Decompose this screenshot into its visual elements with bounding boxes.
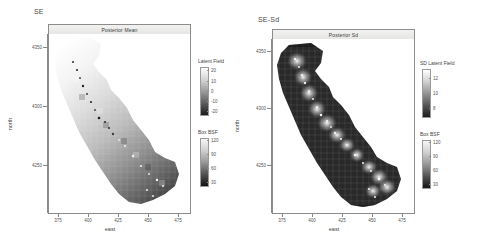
y-tick-label-1-right: 4300	[244, 106, 266, 111]
plot-area-posterior-mean	[48, 34, 191, 214]
legend-tick-bsf-r-1	[429, 156, 431, 157]
legend-tick-bsf-l-0	[207, 140, 209, 141]
legend-tick-bsf-r-0	[429, 142, 431, 143]
y-axis-title-right: north	[234, 120, 240, 133]
heatmap-canvas-mean	[49, 34, 190, 213]
legend-value-lf-3: -10	[211, 99, 218, 104]
legend-value-bsf-l-3: 30	[211, 180, 216, 185]
y-tick-label-0-right: 4350	[244, 49, 266, 54]
x-tick-4-right	[402, 213, 403, 217]
x-tick-1-right	[312, 213, 313, 217]
strip-label-posterior-mean: Posterior Mean	[101, 27, 137, 33]
x-tick-label-0-left: 375	[54, 218, 62, 223]
legend-tick-lf-4	[207, 111, 209, 112]
legend-title-latent-field: Latent Field	[198, 58, 224, 64]
legend-value-sdlf-1: 10	[433, 91, 438, 96]
legend-tick-sdlf-1	[429, 93, 431, 94]
panel-posterior-mean: SE Posterior Mean	[0, 0, 240, 249]
x-axis-title-left: east	[105, 226, 115, 232]
legend-title-sd-latent-field: SD Latent Field	[420, 60, 454, 66]
legend-tick-sdlf-0	[429, 78, 431, 79]
legend-value-bsf-l-2: 60	[211, 166, 216, 171]
y-tick-label-2-left: 4250	[20, 163, 42, 168]
x-tick-0-left	[58, 213, 59, 217]
legend-value-bsf-r-0: 120	[433, 140, 441, 145]
figure-root: SE Posterior Mean	[0, 0, 479, 249]
legend-title-box-bsf-left: Box BSF	[198, 129, 218, 135]
y-tick-label-1-left: 4300	[20, 104, 42, 109]
map-posterior-mean	[49, 34, 190, 213]
legend-tick-bsf-r-3	[429, 184, 431, 185]
x-tick-2-right	[342, 213, 343, 217]
x-tick-label-4-left: 475	[174, 218, 182, 223]
legend-tick-bsf-l-1	[207, 154, 209, 155]
legend-value-bsf-l-1: 90	[211, 152, 216, 157]
legend-value-bsf-l-0: 120	[211, 138, 219, 143]
y-tick-0-left	[43, 47, 47, 48]
x-tick-3-left	[148, 213, 149, 217]
x-tick-label-4-right: 475	[398, 218, 406, 223]
panel-posterior-sd: SE-Sd Posterior Sd	[240, 0, 479, 249]
legend-tick-sdlf-2	[429, 108, 431, 109]
x-tick-4-left	[178, 213, 179, 217]
legend-colorbar-box-bsf-left	[200, 138, 209, 187]
x-tick-label-3-right: 450	[368, 218, 376, 223]
y-tick-0-right	[267, 51, 271, 52]
x-tick-label-2-left: 425	[114, 218, 122, 223]
map-posterior-sd	[273, 39, 414, 213]
x-tick-label-2-right: 425	[338, 218, 346, 223]
legend-value-lf-0: 20	[211, 68, 216, 73]
plot-area-posterior-sd	[272, 39, 415, 214]
y-tick-2-right	[267, 165, 271, 166]
legend-tick-lf-1	[207, 81, 209, 82]
x-tick-1-left	[88, 213, 89, 217]
y-axis-line-right	[271, 39, 272, 213]
legend-tick-bsf-l-2	[207, 168, 209, 169]
heatmap-body-sd	[273, 39, 414, 213]
legend-colorbar-box-bsf-right	[422, 140, 431, 189]
legend-value-lf-4: -20	[211, 109, 218, 114]
x-tick-2-left	[118, 213, 119, 217]
legend-tick-lf-0	[207, 70, 209, 71]
legend-value-lf-1: 10	[211, 79, 216, 84]
legend-value-bsf-r-3: 30	[433, 182, 438, 187]
legend-value-bsf-r-1: 90	[433, 154, 438, 159]
legend-tick-bsf-r-2	[429, 170, 431, 171]
legend-title-box-bsf-right: Box BSF	[420, 131, 440, 137]
x-tick-label-3-left: 450	[144, 218, 152, 223]
y-tick-label-2-right: 4250	[244, 163, 266, 168]
x-tick-label-0-right: 375	[278, 218, 286, 223]
x-tick-label-1-right: 400	[308, 218, 316, 223]
legend-value-lf-2: 0	[211, 89, 214, 94]
legend-value-sdlf-2: 8	[433, 106, 436, 111]
legend-tick-bsf-l-3	[207, 182, 209, 183]
y-tick-2-left	[43, 165, 47, 166]
x-axis-title-right: east	[329, 226, 339, 232]
x-tick-0-right	[282, 213, 283, 217]
panel-tag-se-sd: SE-Sd	[258, 16, 279, 23]
y-tick-label-0-left: 4350	[20, 45, 42, 50]
heatmap-canvas-sd	[273, 39, 414, 213]
x-tick-3-right	[372, 213, 373, 217]
y-tick-1-right	[267, 108, 271, 109]
y-tick-1-left	[43, 106, 47, 107]
legend-tick-lf-2	[207, 91, 209, 92]
legend-value-sdlf-0: 12	[433, 76, 438, 81]
y-axis-line-left	[47, 34, 48, 213]
legend-value-bsf-r-2: 60	[433, 168, 438, 173]
strip-label-posterior-sd: Posterior Sd	[329, 32, 358, 38]
y-axis-title-left: north	[7, 118, 13, 131]
panel-tag-se: SE	[34, 8, 44, 15]
legend-tick-lf-3	[207, 101, 209, 102]
x-tick-label-1-left: 400	[84, 218, 92, 223]
heatmap-body-mean	[49, 34, 190, 213]
